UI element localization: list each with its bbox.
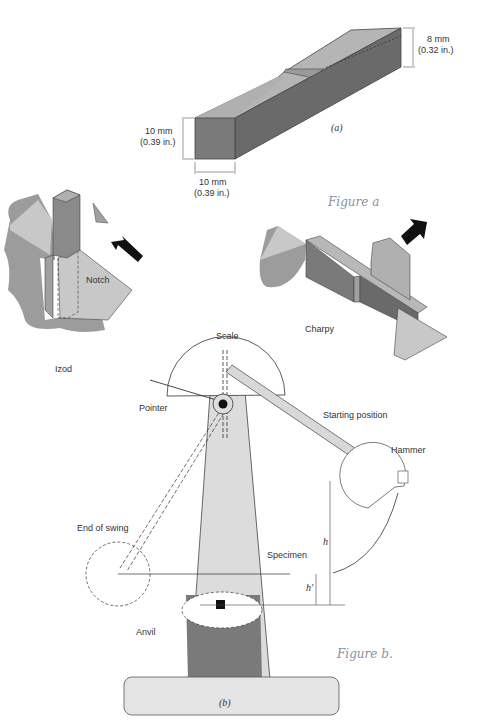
handwritten-note-b: Figure b. xyxy=(336,647,393,661)
hammer-label: Hammer xyxy=(391,445,426,455)
izod-label: Izod xyxy=(55,364,72,374)
charpy-setup xyxy=(260,219,447,360)
dim-width-in: (0.39 in.) xyxy=(194,188,230,198)
specimen-block xyxy=(216,600,225,609)
handwritten-note-a: Figure a xyxy=(327,195,379,209)
dim-width-mm: 10 mm xyxy=(199,177,227,187)
notch-label: Notch xyxy=(86,275,110,285)
dim-notch-in: (0.32 in.) xyxy=(418,45,454,55)
dim-height-in: (0.39 in.) xyxy=(140,137,176,147)
h-label: h xyxy=(323,536,328,547)
scale-label: Scale xyxy=(216,331,239,341)
specimen-bar xyxy=(195,28,401,159)
caption-a: (a) xyxy=(331,122,343,134)
izod-setup xyxy=(4,190,143,332)
pendulum-frame xyxy=(124,380,339,715)
specimen-label: Specimen xyxy=(267,550,307,560)
dim-notch-mm: 8 mm xyxy=(427,34,450,44)
charpy-label: Charpy xyxy=(305,324,335,334)
end-of-swing-label: End of swing xyxy=(77,523,129,533)
impact-test-diagram: 10 mm (0.39 in.) 10 mm (0.39 in.) 8 mm (… xyxy=(0,0,481,723)
dim-height-mm: 10 mm xyxy=(145,126,173,136)
h-prime-label: h′ xyxy=(306,582,314,593)
pointer-label: Pointer xyxy=(139,403,168,413)
anvil-label: Anvil xyxy=(136,627,156,637)
starting-position-label: Starting position xyxy=(323,410,388,420)
caption-b: (b) xyxy=(219,697,231,709)
hammer xyxy=(333,442,408,573)
